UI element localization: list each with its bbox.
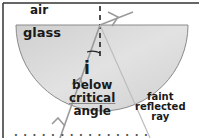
air-label: air <box>30 4 48 16</box>
glass-label: glass <box>23 26 61 39</box>
angle-i-label: i <box>84 60 90 77</box>
caption-line: angle <box>69 105 115 118</box>
faint-reflected-ray-label: faint reflected ray <box>135 92 186 122</box>
below-critical-angle-label: below critical angle <box>69 79 115 118</box>
caption-line: ray <box>135 112 186 122</box>
refracted-arrow-icon <box>108 12 118 26</box>
truncated-caption: · · · · · · · · · · · · · · · <box>14 131 149 138</box>
incident-arrow-icon <box>52 118 65 126</box>
